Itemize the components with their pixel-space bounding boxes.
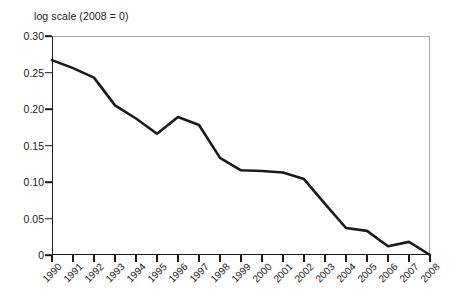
x-axis-tick [282, 255, 283, 262]
x-axis: 1990199119921993199419951996199719981999… [0, 0, 464, 301]
x-axis-tick-label: 1990 [40, 261, 64, 285]
x-axis-tick [324, 255, 325, 262]
x-axis-tick-label: 2008 [418, 261, 442, 285]
x-axis-tick [261, 255, 262, 262]
x-axis-tick [177, 255, 178, 262]
x-axis-tick [240, 255, 241, 262]
x-axis-tick [345, 255, 346, 262]
x-axis-tick [408, 255, 409, 262]
x-axis-tick-label: 1996 [166, 261, 190, 285]
x-axis-tick [198, 255, 199, 262]
x-axis-tick-label: 2006 [376, 261, 400, 285]
x-axis-tick-label: 2007 [397, 261, 421, 285]
x-axis-tick [219, 255, 220, 262]
x-axis-tick-label: 1995 [145, 261, 169, 285]
x-axis-tick-label: 1992 [82, 261, 106, 285]
x-axis-tick-label: 2002 [292, 261, 316, 285]
chart-container: log scale (2008 = 0) 0.300.250.200.150.1… [0, 0, 464, 301]
x-axis-tick-label: 2005 [355, 261, 379, 285]
x-axis-tick-label: 1991 [61, 261, 85, 285]
x-axis-tick [93, 255, 94, 262]
x-axis-tick-label: 1994 [124, 261, 148, 285]
x-axis-tick-label: 1998 [208, 261, 232, 285]
x-axis-tick [72, 255, 73, 262]
x-axis-tick [135, 255, 136, 262]
x-axis-tick [387, 255, 388, 262]
x-axis-tick [51, 255, 52, 262]
x-axis-tick-label: 2000 [250, 261, 274, 285]
x-axis-tick-label: 1997 [187, 261, 211, 285]
x-axis-tick [429, 255, 430, 262]
x-axis-tick [366, 255, 367, 262]
x-axis-tick-label: 2004 [334, 261, 358, 285]
x-axis-tick [156, 255, 157, 262]
x-axis-tick-label: 2003 [313, 261, 337, 285]
x-axis-tick-label: 1999 [229, 261, 253, 285]
x-axis-tick-label: 1993 [103, 261, 127, 285]
x-axis-tick-label: 2001 [271, 261, 295, 285]
x-axis-tick [303, 255, 304, 262]
x-axis-tick [114, 255, 115, 262]
